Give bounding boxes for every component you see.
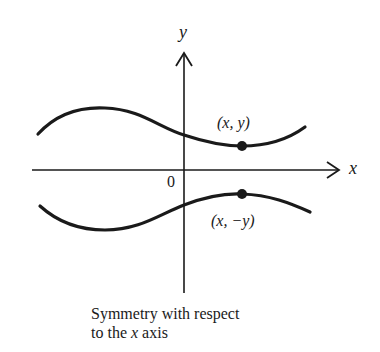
lower-curve [40, 194, 310, 230]
caption-line-2-suffix: axis [138, 324, 168, 341]
y-axis-label: y [179, 22, 187, 43]
caption-line-2: to the x axis [91, 323, 239, 342]
symmetry-diagram: y x 0 (x, y) (x, −y) Symmetry with respe… [0, 0, 380, 352]
origin-label: 0 [167, 173, 175, 191]
point-lower-label: (x, −y) [211, 212, 255, 230]
caption-line-2-prefix: to the [91, 324, 131, 341]
x-axis-label: x [349, 158, 357, 179]
upper-curve [38, 108, 305, 146]
caption: Symmetry with respect to the x axis [91, 304, 239, 342]
point-upper-label: (x, y) [217, 114, 250, 132]
point-lower [237, 189, 247, 199]
graph-canvas [0, 0, 380, 352]
caption-line-1: Symmetry with respect [91, 304, 239, 323]
point-upper [237, 141, 247, 151]
